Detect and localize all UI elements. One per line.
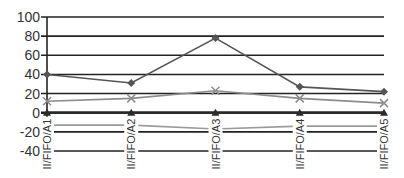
diamond-marker [380, 88, 388, 96]
y-tick-label: -20 [20, 124, 40, 140]
series-line-1 [47, 38, 384, 92]
diamond-marker [212, 34, 220, 42]
y-tick-label: 40 [24, 66, 40, 82]
data-series [43, 34, 388, 129]
diamond-marker [127, 79, 135, 87]
y-tick-label: 60 [24, 47, 40, 63]
line-chart: 100806040200-20-40 II/FIFO/A1II/FIFO/A2I… [0, 0, 404, 178]
x-category-label: II/FIFO/A3 [210, 119, 222, 170]
x-category-label: II/FIFO/A5 [378, 119, 390, 170]
x-category-label: II/FIFO/A2 [125, 119, 137, 170]
diamond-marker [43, 70, 51, 78]
x-category-label: II/FIFO/A4 [294, 119, 306, 170]
y-tick-label: 0 [32, 105, 40, 121]
y-tick-label: 80 [24, 28, 40, 44]
x-category-label: II/FIFO/A1 [41, 119, 53, 170]
series-line-2 [47, 91, 384, 103]
y-tick-label: 20 [24, 86, 40, 102]
y-tick-label: -40 [20, 143, 40, 159]
y-tick-label: 100 [17, 9, 41, 25]
diamond-marker [296, 83, 304, 91]
